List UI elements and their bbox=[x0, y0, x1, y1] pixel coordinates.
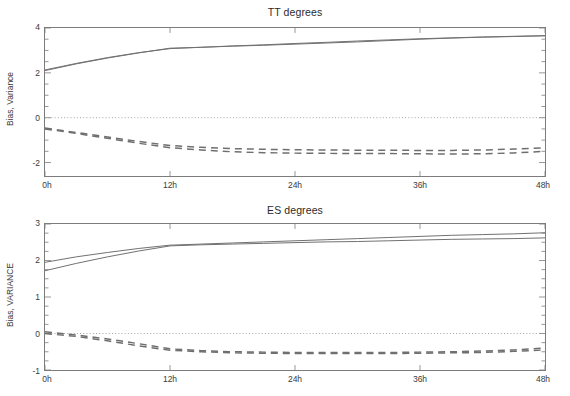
plot-svg-tt bbox=[45, 28, 545, 176]
series-line bbox=[45, 36, 545, 71]
y-tick-label: 0 bbox=[14, 114, 40, 123]
data-series-group-tt bbox=[45, 36, 545, 154]
plot-area-es bbox=[44, 223, 546, 371]
y-axis-ticks-tt: 4 2 0 -2 bbox=[0, 27, 40, 177]
y-tick-label: 2 bbox=[14, 68, 40, 77]
series-line bbox=[45, 332, 545, 353]
x-tick-label: 24h bbox=[288, 374, 302, 384]
y-tick-label: 4 bbox=[14, 23, 40, 32]
x-axis-ticks-es: 0h 12h 24h 36h 48h bbox=[0, 374, 570, 388]
series-line bbox=[45, 233, 545, 263]
chart-title-es: ES degrees bbox=[44, 204, 546, 216]
series-line bbox=[45, 128, 545, 150]
x-tick-label: 36h bbox=[413, 374, 427, 384]
figure: TT degrees Bias, Variance 4 2 0 -2 0h 12… bbox=[0, 0, 570, 396]
series-line bbox=[45, 334, 545, 354]
plot-svg-es bbox=[45, 224, 545, 370]
x-tick-label: 12h bbox=[163, 180, 177, 190]
y-tick-label: -2 bbox=[14, 159, 40, 168]
plot-area-tt bbox=[44, 27, 546, 177]
x-tick-label: 24h bbox=[288, 180, 302, 190]
x-axis-ticks-tt: 0h 12h 24h 36h 48h bbox=[0, 180, 570, 194]
y-tick-label: 0 bbox=[14, 330, 40, 339]
series-line bbox=[45, 238, 545, 271]
axis-tick-marks-es bbox=[45, 224, 545, 370]
x-tick-label: 48h bbox=[536, 374, 550, 384]
y-tick-label: 1 bbox=[14, 293, 40, 302]
x-tick-label: 36h bbox=[413, 180, 427, 190]
x-tick-label: 12h bbox=[163, 374, 177, 384]
data-series-group-es bbox=[45, 233, 545, 354]
chart-panel-es: ES degrees Bias, VARIANCE 3 2 1 0 -1 0h … bbox=[0, 198, 570, 396]
x-tick-label: 0h bbox=[42, 180, 51, 190]
y-tick-label: 2 bbox=[14, 256, 40, 265]
chart-title-tt: TT degrees bbox=[44, 6, 546, 18]
y-axis-ticks-es: 3 2 1 0 -1 bbox=[0, 223, 40, 371]
x-tick-label: 0h bbox=[42, 374, 51, 384]
y-tick-label: 3 bbox=[14, 219, 40, 228]
series-line bbox=[45, 36, 545, 70]
x-tick-label: 48h bbox=[536, 180, 550, 190]
chart-panel-tt: TT degrees Bias, Variance 4 2 0 -2 0h 12… bbox=[0, 0, 570, 198]
